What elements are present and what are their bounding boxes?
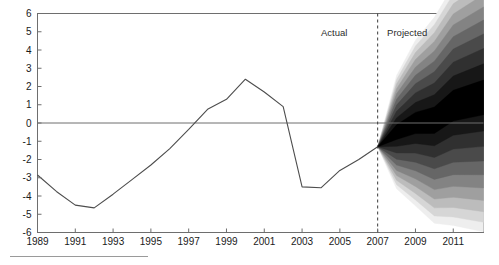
- y-tick-label: 5: [26, 26, 32, 37]
- chart-figure: 6543210-1-2-3-4-5-6198919911993199519971…: [0, 0, 499, 265]
- y-tick-label: -4: [23, 191, 32, 202]
- y-tick-label: -2: [23, 154, 32, 165]
- y-tick-label: -5: [23, 209, 32, 220]
- y-tick-label: -1: [23, 136, 32, 147]
- y-tick-label: 4: [26, 45, 32, 56]
- x-tick-label: 2005: [329, 236, 352, 247]
- x-tick-label: 2001: [253, 236, 276, 247]
- chart-canvas: 6543210-1-2-3-4-5-6198919911993199519971…: [0, 0, 499, 265]
- y-tick-label: -3: [23, 172, 32, 183]
- x-tick-label: 1999: [215, 236, 238, 247]
- annotation-projected: Projected: [387, 27, 427, 38]
- y-tick-label: 2: [26, 81, 32, 92]
- annotation-actual: Actual: [321, 27, 347, 38]
- x-tick-label: 1989: [26, 236, 49, 247]
- x-tick-label: 1993: [102, 236, 125, 247]
- y-tick-label: 3: [26, 63, 32, 74]
- y-tick-label: 0: [26, 118, 32, 129]
- x-tick-label: 2009: [404, 236, 427, 247]
- x-tick-label: 1995: [140, 236, 163, 247]
- x-tick-label: 2003: [291, 236, 314, 247]
- y-tick-label: 1: [26, 99, 32, 110]
- y-tick-label: 6: [26, 8, 32, 19]
- x-tick-label: 1991: [64, 236, 87, 247]
- x-tick-label: 2011: [443, 236, 465, 247]
- x-tick-label: 1997: [178, 236, 201, 247]
- x-tick-label: 2007: [367, 236, 390, 247]
